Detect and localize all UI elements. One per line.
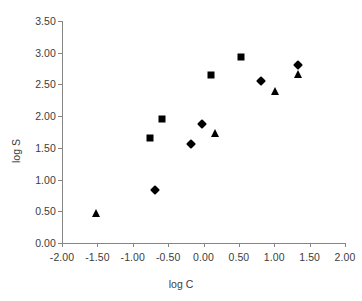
- data-point-triangle: [92, 209, 100, 217]
- data-point-triangle: [211, 129, 219, 137]
- scatter-chart: log S 0.000.501.001.502.002.503.003.50 -…: [0, 0, 362, 301]
- x-axis-title: log C: [0, 278, 362, 290]
- y-tick: [58, 180, 62, 181]
- y-tick-label: 2.50: [35, 78, 56, 90]
- x-tick: [345, 243, 346, 247]
- data-point-triangle: [271, 87, 279, 95]
- x-tick-label: -2.00: [50, 251, 74, 263]
- data-point-diamond: [197, 119, 207, 129]
- x-tick-label: -0.50: [156, 251, 180, 263]
- y-tick-label: 1.50: [35, 142, 56, 154]
- data-point-triangle: [294, 70, 302, 78]
- data-point-diamond: [256, 76, 266, 86]
- data-point-diamond: [150, 185, 160, 195]
- y-tick: [58, 21, 62, 22]
- x-tick: [133, 243, 134, 247]
- data-point-square: [237, 54, 244, 61]
- y-tick-label: 3.00: [35, 47, 56, 59]
- y-tick: [58, 148, 62, 149]
- y-tick-label: 1.00: [35, 174, 56, 186]
- data-point-square: [208, 71, 215, 78]
- x-tick: [204, 243, 205, 247]
- y-tick-label: 2.00: [35, 110, 56, 122]
- x-tick-label: 0.00: [193, 251, 214, 263]
- x-tick-label: 2.00: [335, 251, 356, 263]
- y-tick-label: 3.50: [35, 15, 56, 27]
- x-tick-label: 1.50: [299, 251, 320, 263]
- y-axis-title: log S: [10, 139, 22, 163]
- x-tick-label: -1.00: [121, 251, 145, 263]
- y-tick-label: 0.50: [35, 205, 56, 217]
- y-tick: [58, 211, 62, 212]
- x-tick: [62, 243, 63, 247]
- y-tick-label: 0.00: [35, 237, 56, 249]
- x-tick-label: 0.50: [228, 251, 249, 263]
- x-tick-label: -1.50: [85, 251, 109, 263]
- x-tick: [239, 243, 240, 247]
- data-point-diamond: [293, 60, 303, 70]
- y-axis-line: [62, 21, 63, 244]
- x-tick: [168, 243, 169, 247]
- x-tick-label: 1.00: [264, 251, 285, 263]
- y-tick: [58, 53, 62, 54]
- x-tick: [310, 243, 311, 247]
- data-point-diamond: [186, 139, 196, 149]
- y-tick: [58, 116, 62, 117]
- data-point-square: [158, 116, 165, 123]
- x-tick: [274, 243, 275, 247]
- y-tick: [58, 84, 62, 85]
- data-point-square: [146, 134, 153, 141]
- plot-area: 0.000.501.001.502.002.503.003.50 -2.00-1…: [62, 21, 345, 243]
- x-tick: [97, 243, 98, 247]
